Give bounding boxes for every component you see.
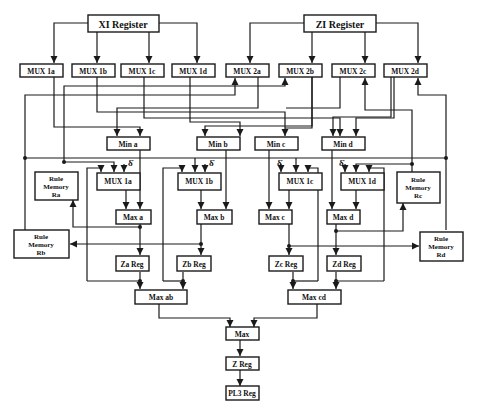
- mux-2b-label: MUX 2b: [286, 67, 314, 76]
- lower-mux-1a-label: MUX 1a: [104, 177, 132, 186]
- rule-memory-ra-line2: Memory: [43, 183, 69, 191]
- max-a: Max a: [116, 210, 151, 224]
- rule-memory-rc-line1: Rule: [411, 176, 425, 184]
- mux-2d: MUX 2d: [384, 64, 427, 77]
- mux-1c-label: MUX 1c: [129, 67, 157, 76]
- min-a: Min a: [107, 137, 150, 150]
- rule-memory-rc-line2: Memory: [405, 184, 431, 192]
- rule-memory-rb-line2: Memory: [28, 241, 54, 249]
- rule-memory-rd: Rule Memory Rd: [420, 232, 463, 261]
- mux-2d-label: MUX 2d: [391, 67, 420, 76]
- mux-2a-label: MUX 2a: [233, 67, 261, 76]
- lower-mux-1d: MUX 1d: [341, 173, 384, 190]
- min-b: Min b: [197, 137, 240, 150]
- z-reg-label: Z Reg: [232, 360, 252, 369]
- rule-memory-ra-line1: Rule: [49, 175, 63, 183]
- mux-1c: MUX 1c: [121, 64, 164, 77]
- rule-memory-rb-line1: Rule: [34, 233, 48, 241]
- min-a-label: Min a: [119, 140, 138, 149]
- zd-reg-label: Zd Reg: [332, 260, 356, 269]
- rule-memory-ra-line3: Ra: [52, 191, 61, 199]
- lower-mux-1d-label: MUX 1d: [348, 177, 377, 186]
- min-c-label: Min c: [267, 140, 286, 149]
- delta-symbol-1a: δ̇: [128, 158, 134, 168]
- lower-mux-1c: MUX 1c: [279, 173, 322, 190]
- min-d: Min d: [322, 137, 365, 150]
- xi-register: XI Register: [88, 15, 159, 32]
- delta-symbol-1b: δ̇: [209, 158, 215, 168]
- lower-mux-1b-label: MUX 1b: [185, 177, 213, 186]
- mux-1a: MUX 1a: [20, 64, 63, 77]
- mux-1d: MUX 1d: [172, 64, 215, 77]
- max-b-label: Max b: [204, 213, 225, 222]
- rule-memory-rc: Rule Memory Rc: [397, 172, 440, 203]
- max-final-label: Max: [235, 330, 250, 339]
- zc-reg: Zc Reg: [269, 256, 303, 271]
- mux-1b: MUX 1b: [72, 64, 115, 77]
- mux-2a: MUX 2a: [226, 64, 269, 77]
- xi-register-label: XI Register: [98, 19, 148, 30]
- mux-2c-label: MUX 2c: [340, 67, 368, 76]
- max-c-label: Max c: [265, 213, 285, 222]
- zc-reg-label: Zc Reg: [275, 260, 298, 269]
- rule-memory-ra: Rule Memory Ra: [35, 172, 78, 200]
- max-b: Max b: [197, 210, 232, 224]
- fuzzy-processor-block-diagram: XI Register ZI Register MUX 1a MUX 1b MU…: [0, 0, 479, 412]
- rule-memory-rb-line3: Rb: [37, 249, 46, 257]
- max-c: Max c: [259, 210, 292, 224]
- mux-2c: MUX 2c: [332, 64, 375, 77]
- max-a-label: Max a: [123, 213, 143, 222]
- za-reg: Za Reg: [116, 256, 149, 271]
- mux-1b-label: MUX 1b: [79, 67, 107, 76]
- za-reg-label: Za Reg: [120, 260, 143, 269]
- zb-reg-label: Zb Reg: [182, 260, 206, 269]
- max-d-label: Max d: [333, 213, 354, 222]
- lower-mux-1b: MUX 1b: [178, 173, 221, 190]
- pl3-reg-label: PL3 Reg: [228, 389, 256, 398]
- rule-memory-rd-line3: Rd: [437, 251, 446, 259]
- max-cd-label: Max cd: [302, 293, 327, 302]
- mux-1a-label: MUX 1a: [27, 67, 55, 76]
- delta-symbol-1d: δ̇: [339, 158, 345, 168]
- rule-memory-rc-line3: Rc: [414, 192, 422, 200]
- min-d-label: Min d: [333, 140, 353, 149]
- zi-register: ZI Register: [304, 15, 376, 32]
- zi-register-label: ZI Register: [316, 19, 365, 30]
- max-cd: Max cd: [288, 290, 341, 304]
- z-reg: Z Reg: [226, 357, 259, 370]
- zb-reg: Zb Reg: [177, 256, 211, 271]
- delta-symbol-1c: δ̇: [277, 158, 283, 168]
- lower-mux-1c-label: MUX 1c: [287, 177, 315, 186]
- rule-memory-rd-line1: Rule: [434, 235, 448, 243]
- rule-memory-rb: Rule Memory Rb: [14, 230, 69, 258]
- min-c: Min c: [255, 137, 298, 150]
- lower-mux-1a: MUX 1a: [97, 173, 140, 190]
- max-final: Max: [226, 327, 259, 340]
- max-d: Max d: [327, 210, 360, 224]
- rule-memory-rd-line2: Memory: [428, 243, 454, 251]
- zd-reg: Zd Reg: [327, 256, 361, 271]
- min-b-label: Min b: [208, 140, 227, 149]
- max-ab-label: Max ab: [149, 293, 173, 302]
- mux-1d-label: MUX 1d: [179, 67, 208, 76]
- mux-2b: MUX 2b: [279, 64, 322, 77]
- max-ab: Max ab: [135, 290, 187, 304]
- pl3-reg: PL3 Reg: [226, 386, 259, 400]
